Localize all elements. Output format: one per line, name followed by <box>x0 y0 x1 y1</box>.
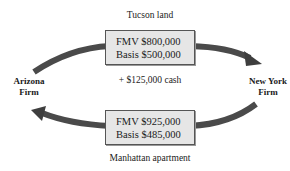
tucson-land-box: FMV $800,000 Basis $500,000 <box>105 30 195 65</box>
tucson-fmv: FMV $800,000 <box>116 35 194 48</box>
new-york-firm-label: New York Firm <box>240 76 290 98</box>
left-arrowhead-icon <box>31 106 46 121</box>
right-arrowhead-icon <box>244 51 262 66</box>
tucson-land-label: Tucson land <box>100 10 200 20</box>
tucson-basis: Basis $500,000 <box>116 48 194 61</box>
cash-label: + $125,000 cash <box>100 75 200 85</box>
arizona-firm-line2: Firm <box>2 87 56 98</box>
manhattan-apartment-box: FMV $925,000 Basis $485,000 <box>105 110 195 145</box>
manhattan-apartment-label: Manhattan apartment <box>90 153 210 163</box>
new-york-firm-line1: New York <box>240 76 290 87</box>
arizona-firm-label: Arizona Firm <box>2 76 56 98</box>
arizona-firm-line1: Arizona <box>2 76 56 87</box>
new-york-firm-line2: Firm <box>240 87 290 98</box>
manhattan-fmv: FMV $925,000 <box>116 115 194 128</box>
manhattan-basis: Basis $485,000 <box>116 128 194 141</box>
